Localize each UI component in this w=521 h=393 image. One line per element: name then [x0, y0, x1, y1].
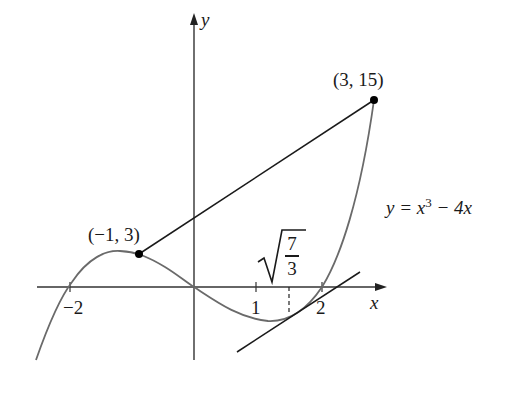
sqrt-fraction: 7 3	[285, 234, 299, 278]
point-3-15	[370, 96, 378, 104]
y-axis-label: y	[201, 10, 209, 29]
tick-label-1: 1	[251, 298, 261, 317]
tick-label-neg2: −2	[63, 298, 83, 317]
secant-line	[139, 100, 374, 254]
fraction-bar	[285, 255, 299, 257]
fraction-numerator: 7	[287, 234, 297, 253]
x-axis-label: x	[370, 293, 378, 312]
cubic-curve	[36, 100, 374, 360]
equation-label: y = x3 − 4x	[386, 196, 472, 217]
x-axis-arrow-icon	[375, 283, 387, 291]
point-label-3-15: (3, 15)	[333, 70, 384, 89]
fraction-denominator: 3	[287, 259, 297, 278]
point-neg1-3	[135, 250, 143, 258]
point-label-neg1-3: (−1, 3)	[88, 225, 140, 244]
y-axis-arrow-icon	[190, 13, 198, 25]
tick-label-2: 2	[316, 298, 326, 317]
